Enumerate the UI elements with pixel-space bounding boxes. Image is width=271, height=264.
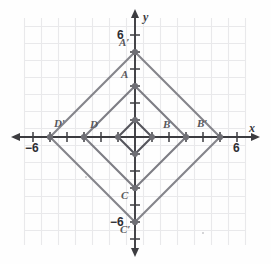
vertex-a-prime xyxy=(132,49,138,55)
point-label-b-prime: B′ xyxy=(197,118,207,129)
point-label-c: C xyxy=(121,190,128,201)
vertex-inner-left xyxy=(115,134,121,140)
vertex-c-prime xyxy=(132,219,138,225)
x-tick-label-minus-6: −6 xyxy=(25,142,39,154)
point-label-d-prime: D′ xyxy=(54,118,65,129)
point-label-b: B xyxy=(163,119,170,130)
coordinate-plane-svg xyxy=(0,0,271,264)
point-label-d: D xyxy=(90,119,98,130)
axis-label-y: y xyxy=(143,11,148,23)
vertex-b-prime xyxy=(217,134,223,140)
point-label-a: A xyxy=(121,69,128,80)
vertex-a xyxy=(132,83,138,89)
vertex-c xyxy=(132,185,138,191)
vertex-b xyxy=(183,134,189,140)
vertex-inner-top xyxy=(132,117,138,123)
y-tick-label-minus-6: −6 xyxy=(110,216,124,228)
vertex-inner-bottom xyxy=(132,151,138,157)
axis-label-x: x xyxy=(249,122,255,134)
scan-speck-1 xyxy=(85,176,87,178)
y-tick-label-6: 6 xyxy=(117,29,124,41)
vertex-inner-right xyxy=(149,134,155,140)
x-tick-label-6: 6 xyxy=(233,142,240,154)
vertex-d xyxy=(81,134,87,140)
vertex-d-prime xyxy=(47,134,53,140)
scan-speck-2 xyxy=(202,232,204,234)
figure-canvas: A′ A B B′ C C′ D D′ y x 6 −6 −6 6 xyxy=(0,0,271,264)
